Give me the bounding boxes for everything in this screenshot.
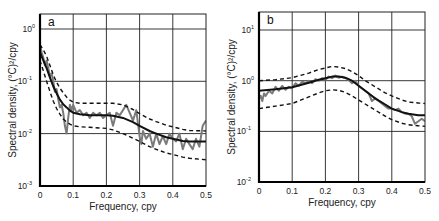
panel-a-curves [40,45,206,160]
lower-confidence-line [259,90,425,127]
panel-b-axes [258,12,425,183]
panel-a-label: a [48,15,55,29]
x-tick-label: 0.5 [419,186,431,196]
x-tick-label: 0 [257,186,262,196]
y-tick-label: 10-2 [237,176,251,187]
x-tick-label: 0.4 [386,186,398,196]
x-tick-label: 0.3 [134,190,146,200]
y-tick-label: 10-3 [18,180,32,191]
y-tick-label: 10-2 [18,128,32,139]
panel-a-tick-labels: 00.10.20.30.40.510010-110-210-3 [18,23,213,200]
y-tick-label: 10-1 [237,125,251,136]
y-tick-label: 100 [22,23,35,34]
y-tick-label: 10-1 [18,75,32,86]
panel-b-y-axis-label: Spectral density, (°C)²/cpy [226,39,237,155]
x-tick-label: 0.1 [67,190,79,200]
panel-a-axes [39,14,206,187]
panel-b-chart: 00.10.20.30.40.510110010-110-2 b Frequen… [226,12,431,208]
panel-a-chart: 00.10.20.30.40.510010-110-210-3 a Freque… [7,14,212,212]
x-tick-label: 0.2 [319,186,331,196]
panel-a-y-axis-label: Spectral density, (°C)²/cpy [7,42,18,158]
x-tick-label: 0.1 [286,186,298,196]
panel-b-label: b [267,13,274,27]
panel-a-x-axis-label: Frequency, cpy [89,201,157,212]
x-tick-label: 0.3 [353,186,365,196]
observed-spectrum-line [259,76,425,124]
x-tick-label: 0.4 [167,190,179,200]
y-tick-label: 101 [241,24,254,35]
x-tick-label: 0.2 [100,190,112,200]
plot-frame [40,14,206,186]
x-tick-label: 0 [38,190,43,200]
y-tick-label: 100 [241,75,254,86]
plot-frame [259,12,425,182]
panel-b-x-axis-label: Frequency, cpy [308,197,376,208]
spectral-density-figure: 00.10.20.30.40.510010-110-210-3 a Freque… [0,0,439,221]
panel-a-grid [40,14,206,186]
upper-confidence-line [259,67,425,104]
panel-b-curves [259,67,425,127]
x-tick-label: 0.5 [200,190,212,200]
panel-b-grid [259,12,425,182]
panel-b-tick-labels: 00.10.20.30.40.510110010-110-2 [237,24,432,196]
